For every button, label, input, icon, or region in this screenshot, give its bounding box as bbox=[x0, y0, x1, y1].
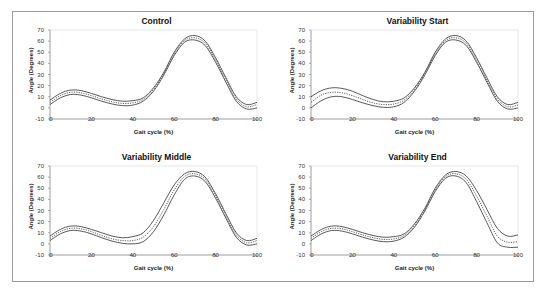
y-tick-label: 0 bbox=[41, 241, 45, 247]
y-axis-label: Angle (Degrees) bbox=[289, 183, 295, 229]
y-tick-label: 20 bbox=[298, 219, 305, 225]
x-tick-label: 80 bbox=[473, 252, 480, 258]
x-tick-label: 60 bbox=[432, 252, 439, 258]
y-tick-label: 0 bbox=[41, 105, 45, 111]
x-tick-label: 20 bbox=[349, 116, 356, 122]
chart-title: Control bbox=[141, 16, 171, 26]
panel-variability-end: -10010203040506070020406080100Variabilit… bbox=[289, 152, 524, 271]
y-tick-label: 60 bbox=[298, 174, 305, 180]
y-tick-label: 10 bbox=[37, 230, 44, 236]
y-tick-label: 20 bbox=[298, 83, 305, 89]
y-tick-label: 70 bbox=[298, 163, 305, 169]
y-tick-label: 50 bbox=[298, 185, 305, 191]
y-tick-label: 30 bbox=[37, 72, 44, 78]
y-tick-label: 10 bbox=[298, 230, 305, 236]
x-tick-label: 60 bbox=[432, 116, 439, 122]
y-tick-label: 40 bbox=[298, 60, 305, 66]
charts-figure: -10010203040506070020406080100ControlGai… bbox=[0, 0, 545, 291]
x-tick-label: 20 bbox=[349, 252, 356, 258]
y-tick-label: 70 bbox=[37, 163, 44, 169]
x-tick-label: 20 bbox=[88, 116, 95, 122]
y-tick-label: -10 bbox=[35, 252, 44, 258]
chart-title: Variability Start bbox=[387, 16, 449, 26]
y-tick-label: 60 bbox=[37, 174, 44, 180]
x-tick-label: 40 bbox=[390, 116, 397, 122]
x-tick-label: 80 bbox=[212, 116, 219, 122]
x-tick-label: 40 bbox=[390, 252, 397, 258]
x-tick-label: 80 bbox=[212, 252, 219, 258]
y-tick-label: -10 bbox=[35, 116, 44, 122]
y-tick-label: 0 bbox=[302, 105, 306, 111]
x-axis-label: Gait cycle (%) bbox=[134, 129, 173, 135]
y-tick-label: -10 bbox=[296, 116, 305, 122]
x-tick-label: 80 bbox=[473, 116, 480, 122]
y-tick-label: 0 bbox=[302, 241, 306, 247]
plot-area bbox=[311, 166, 518, 255]
x-tick-label: 100 bbox=[252, 116, 263, 122]
y-tick-label: 10 bbox=[37, 94, 44, 100]
y-tick-label: -10 bbox=[296, 252, 305, 258]
plot-area bbox=[50, 166, 257, 255]
y-tick-label: 70 bbox=[37, 27, 44, 33]
y-tick-label: 60 bbox=[37, 38, 44, 44]
panel-variability-start: -10010203040506070020406080100Variabilit… bbox=[289, 16, 524, 135]
y-tick-label: 10 bbox=[298, 94, 305, 100]
x-tick-label: 40 bbox=[129, 116, 136, 122]
chart-title: Variability End bbox=[388, 152, 447, 162]
x-axis-label: Gait cycle (%) bbox=[134, 265, 173, 271]
y-tick-label: 20 bbox=[37, 219, 44, 225]
x-tick-label: 20 bbox=[88, 252, 95, 258]
y-tick-label: 30 bbox=[298, 72, 305, 78]
x-axis-label: Gait cycle (%) bbox=[395, 129, 434, 135]
y-axis-label: Angle (Degrees) bbox=[28, 183, 34, 229]
panel-control: -10010203040506070020406080100ControlGai… bbox=[28, 16, 263, 135]
y-axis-label: Angle (Degrees) bbox=[289, 47, 295, 93]
plot-area bbox=[311, 30, 518, 119]
x-tick-label: 100 bbox=[252, 252, 263, 258]
y-tick-label: 30 bbox=[37, 208, 44, 214]
x-tick-label: 60 bbox=[171, 252, 178, 258]
x-tick-label: 60 bbox=[171, 116, 178, 122]
plot-area bbox=[50, 30, 257, 119]
x-axis-label: Gait cycle (%) bbox=[395, 265, 434, 271]
chart-title: Variability Middle bbox=[122, 152, 192, 162]
y-tick-label: 50 bbox=[37, 49, 44, 55]
x-tick-label: 40 bbox=[129, 252, 136, 258]
y-tick-label: 60 bbox=[298, 38, 305, 44]
y-tick-label: 40 bbox=[37, 196, 44, 202]
y-tick-label: 30 bbox=[298, 208, 305, 214]
x-tick-label: 100 bbox=[513, 252, 524, 258]
y-tick-label: 70 bbox=[298, 27, 305, 33]
y-tick-label: 50 bbox=[37, 185, 44, 191]
y-tick-label: 40 bbox=[298, 196, 305, 202]
x-tick-label: 100 bbox=[513, 116, 524, 122]
y-tick-label: 50 bbox=[298, 49, 305, 55]
y-axis-label: Angle (Degrees) bbox=[28, 47, 34, 93]
y-tick-label: 20 bbox=[37, 83, 44, 89]
y-tick-label: 40 bbox=[37, 60, 44, 66]
panel-variability-middle: -10010203040506070020406080100Variabilit… bbox=[28, 152, 263, 271]
